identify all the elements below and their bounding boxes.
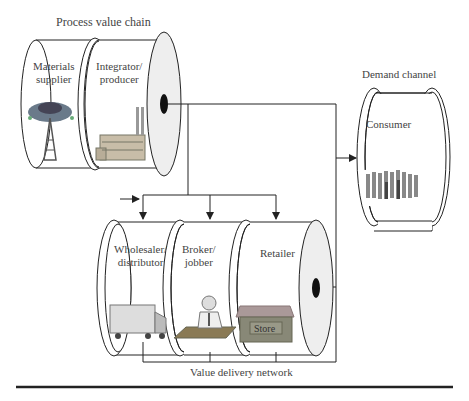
retailer-node-dot bbox=[312, 278, 320, 298]
output-node-dot bbox=[160, 94, 168, 114]
stage-label-line: Integrator/ bbox=[96, 60, 142, 73]
stage-label-line: distributor bbox=[114, 256, 167, 269]
delivery-network-cylinder bbox=[97, 220, 336, 362]
stage-label-line: Broker/ bbox=[182, 243, 216, 256]
demand-channel-cylinder bbox=[357, 88, 450, 231]
stage-label-line: jobber bbox=[182, 256, 216, 269]
process-chain-title: Process value chain bbox=[56, 16, 151, 29]
stage-label-line: Materials bbox=[33, 60, 75, 73]
stage-label-consumer: Consumer bbox=[366, 118, 411, 131]
stage-label-broker-jobber: Broker/ jobber bbox=[182, 243, 216, 269]
people-crowd-icon bbox=[364, 170, 422, 206]
delivery-network-title: Value delivery network bbox=[190, 366, 293, 379]
stage-label-wholesaler-distributor: Wholesaler/ distributor bbox=[114, 243, 167, 269]
demand-channel-title: Demand channel bbox=[362, 68, 436, 81]
stage-label-retailer: Retailer bbox=[260, 247, 295, 260]
stage-label-line: Wholesaler/ bbox=[114, 243, 167, 256]
stage-label-integrator-producer: Integrator/ producer bbox=[96, 60, 142, 86]
store-sign: Store bbox=[254, 322, 275, 335]
stage-label-materials-supplier: Materials supplier bbox=[33, 60, 75, 86]
stage-label-line: supplier bbox=[33, 73, 75, 86]
stage-label-line: producer bbox=[96, 73, 142, 86]
